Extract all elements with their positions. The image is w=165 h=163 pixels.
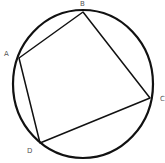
vertex-label-b: B	[80, 0, 85, 8]
vertex-label-d: D	[27, 147, 32, 155]
vertex-label-a: A	[4, 50, 9, 58]
cyclic-quadrilateral-diagram: A B C D	[0, 0, 165, 163]
circumscribed-circle	[13, 10, 153, 158]
vertex-label-c: C	[160, 95, 165, 103]
quadrilateral-abcd	[19, 12, 150, 143]
